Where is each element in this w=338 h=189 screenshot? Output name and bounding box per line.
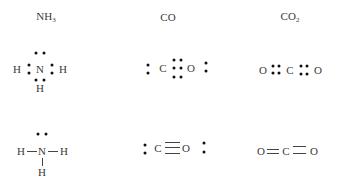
atom-h-bottom: H: [36, 83, 44, 94]
electron-dot: [147, 64, 150, 67]
electron-dot: [173, 67, 176, 70]
electron-dot: [51, 64, 54, 67]
electron-dot: [51, 72, 54, 75]
atom-h-left: H: [13, 64, 21, 75]
electron-dot: [35, 52, 38, 55]
title-nh3: NH3: [36, 11, 55, 24]
lone-pair-dot: [37, 133, 40, 136]
single-bond: [48, 151, 58, 152]
lone-pair-dot: [144, 144, 147, 147]
atom-o-right: O: [314, 65, 322, 76]
electron-dot: [180, 67, 183, 70]
atom-h-right: H: [59, 64, 67, 75]
atom-o-left: O: [259, 65, 267, 76]
double-bond-line: [293, 146, 306, 147]
electron-dot: [306, 73, 309, 76]
atom-c: C: [286, 65, 293, 76]
double-bond-line: [293, 153, 306, 154]
atom-h-right: H: [60, 146, 68, 157]
electron-dot: [205, 62, 208, 65]
electron-dot: [278, 72, 281, 75]
triple-bond-line: [165, 153, 180, 154]
electron-dot: [306, 65, 309, 68]
atom-c: C: [159, 63, 166, 74]
electron-dot: [272, 72, 275, 75]
electron-dot: [300, 65, 303, 68]
atom-h-bottom: H: [38, 167, 46, 178]
lone-pair-dot: [45, 133, 48, 136]
triple-bond-line: [165, 147, 180, 148]
electron-dot: [180, 59, 183, 62]
electron-dot: [28, 72, 31, 75]
electron-dot: [28, 64, 31, 67]
atom-c: C: [282, 146, 289, 157]
lone-pair-dot: [144, 152, 147, 155]
atom-o: O: [182, 143, 190, 154]
atom-n: N: [38, 146, 46, 157]
electron-dot: [180, 76, 183, 79]
electron-dot: [35, 79, 38, 82]
electron-dot: [43, 79, 46, 82]
electron-dot: [205, 70, 208, 73]
triple-bond-line: [165, 142, 180, 143]
title-co: CO: [160, 12, 175, 23]
atom-h-left: H: [17, 146, 25, 157]
electron-dot: [43, 52, 46, 55]
electron-dot: [173, 76, 176, 79]
single-bond: [27, 151, 37, 152]
electron-dot: [300, 73, 303, 76]
atom-o-right: O: [310, 146, 318, 157]
atom-o-left: O: [257, 146, 265, 157]
atom-o: O: [187, 63, 195, 74]
electron-dot: [278, 65, 281, 68]
title-co2: CO2: [281, 11, 300, 24]
electron-dot: [147, 72, 150, 75]
electron-dot: [272, 65, 275, 68]
atom-n: N: [36, 64, 44, 75]
lone-pair-dot: [203, 151, 206, 154]
lone-pair-dot: [203, 142, 206, 145]
double-bond-line: [267, 153, 279, 154]
electron-dot: [173, 59, 176, 62]
atom-c: C: [154, 143, 161, 154]
double-bond-line: [267, 149, 279, 150]
